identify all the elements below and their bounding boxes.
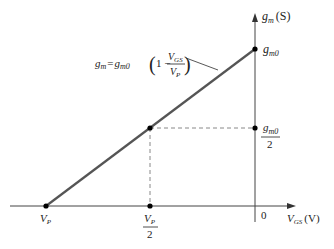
equation-denominator: VP [170, 66, 181, 79]
x-axis-arrow-icon [287, 203, 296, 209]
vp-half-numerator: VP [144, 212, 156, 226]
point-gm0 [252, 46, 257, 51]
equation-lhs: gm=gm0 [95, 57, 130, 71]
gm0-half-denominator: 2 [267, 138, 273, 150]
equation-leader-line [186, 58, 218, 70]
y-axis-arrow-icon [252, 13, 258, 22]
point-gm0-half [252, 125, 257, 130]
point-vp-half [147, 203, 152, 208]
x-axis-label: VGS(V) [287, 212, 320, 226]
y-axis-label: gm(S) [262, 9, 290, 25]
point-midpoint [147, 125, 152, 130]
gm-vs-vgs-diagram: gm(S) gm0 gm0 2 0 VGS(V) VP VP 2 gm=gm0 … [0, 0, 334, 249]
gm0-half-numerator: gm0 [263, 121, 278, 136]
equation-close-paren: ) [184, 53, 191, 76]
origin-label: 0 [261, 209, 267, 221]
vp-half-denominator: 2 [147, 228, 153, 240]
point-vp [43, 203, 48, 208]
equation-open-paren: ( [149, 53, 156, 76]
gm-equation: gm=gm0 ( 1 − VGS VP ) [95, 51, 191, 79]
vp-label: VP [40, 212, 52, 226]
gm0-label: gm0 [263, 42, 279, 58]
